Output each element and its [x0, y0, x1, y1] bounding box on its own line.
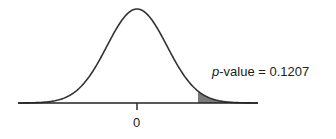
x-tick-label-0: 0 [133, 115, 140, 130]
normal-curve [18, 9, 258, 103]
p-value-text: -value = 0.1207 [219, 64, 309, 79]
p-value-annotation: p-value = 0.1207 [212, 64, 309, 79]
